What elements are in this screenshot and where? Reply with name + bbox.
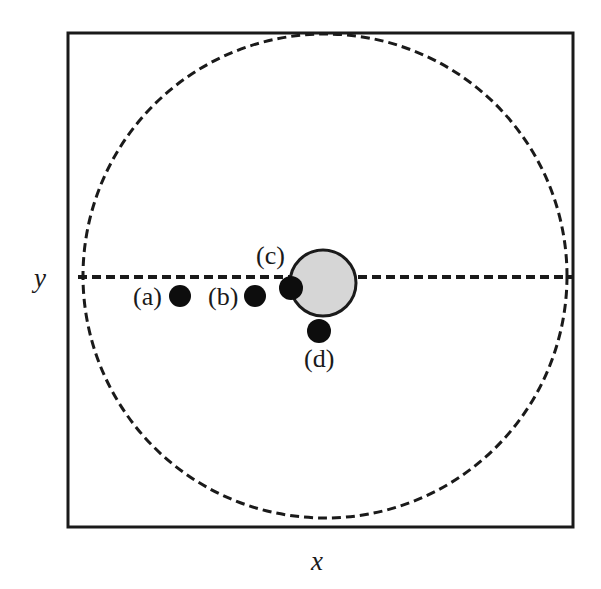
- marker-label-b: (b): [208, 282, 238, 311]
- marker-dot-a: [169, 285, 191, 307]
- marker-label-d: (d): [304, 344, 334, 373]
- x-axis-label: x: [310, 546, 323, 576]
- marker-dot-c: [279, 276, 303, 300]
- marker-dot-b: [244, 285, 266, 307]
- y-axis-label: y: [31, 263, 46, 293]
- figure-canvas: (a)(b)(c)(d) y x: [0, 0, 601, 589]
- marker-dot-d: [307, 319, 331, 343]
- marker-label-c: (c): [256, 241, 285, 270]
- figure-root: (a)(b)(c)(d) y x: [0, 0, 601, 589]
- marker-label-a: (a): [133, 282, 162, 311]
